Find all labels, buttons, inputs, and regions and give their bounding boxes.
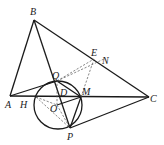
- label-C: C: [150, 93, 157, 104]
- label-E: E: [90, 47, 97, 58]
- label-B: B: [30, 6, 36, 17]
- label-H: H: [19, 99, 28, 110]
- segment-MP: [70, 97, 81, 128]
- dashed-QE: [57, 59, 94, 81]
- segment-AB: [10, 20, 34, 96]
- label-N: N: [101, 55, 110, 66]
- segment-BC: [34, 20, 149, 97]
- point-labels: B A C Q E N H D M O P: [4, 6, 157, 142]
- label-P: P: [66, 131, 73, 142]
- label-D: D: [59, 87, 68, 98]
- geometry-figure: B A C Q E N H D M O P: [0, 0, 164, 145]
- label-A: A: [4, 99, 12, 110]
- dashed-lines: [36, 59, 104, 128]
- label-M: M: [81, 86, 91, 97]
- label-Q: Q: [52, 70, 60, 81]
- label-O: O: [50, 103, 57, 114]
- solid-lines: [10, 20, 149, 129]
- segment-AQ: [10, 81, 57, 96]
